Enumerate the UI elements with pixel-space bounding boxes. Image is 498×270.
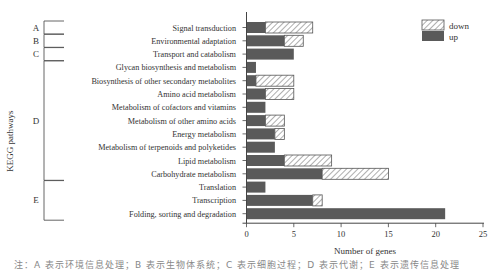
- bar-up: [247, 182, 266, 193]
- bar-down: [322, 168, 388, 179]
- category-label: Metabolism of other amino acids: [128, 117, 236, 126]
- legend-up-swatch: [422, 31, 444, 41]
- category-label: Metabolism of cofactors and vitamins: [112, 103, 236, 112]
- group-label: D: [33, 116, 40, 126]
- bar-up: [247, 128, 275, 139]
- group-bracket: [44, 48, 64, 61]
- category-label: Signal transduction: [173, 24, 236, 33]
- x-tick-label: 25: [479, 229, 488, 239]
- bar-down: [265, 115, 284, 126]
- group-label: E: [33, 195, 39, 205]
- bar-up: [247, 75, 256, 86]
- x-tick-label: 20: [431, 229, 440, 239]
- group-bracket: [44, 181, 64, 221]
- category-label: Biosynthesis of other secondary metaboli…: [91, 77, 236, 86]
- group-label: A: [33, 23, 40, 33]
- group-bracket: [44, 61, 64, 180]
- bar-down: [284, 35, 303, 46]
- bar-up: [247, 195, 313, 206]
- category-label: Metabolism of terpenoids and polyketides: [98, 143, 236, 152]
- x-tick-label: 0: [244, 229, 248, 239]
- category-label: Energy metabolism: [172, 130, 236, 139]
- bar-up: [247, 22, 266, 33]
- legend: down up: [422, 20, 469, 42]
- x-tick-label: 10: [337, 229, 346, 239]
- legend-down-label: down: [449, 21, 469, 31]
- category-label: Translation: [199, 183, 236, 192]
- x-axis-title: Number of genes: [334, 246, 396, 256]
- legend-up-label: up: [449, 32, 459, 42]
- category-label: Transcription: [192, 196, 236, 205]
- bar-up: [247, 35, 285, 46]
- category-label: Carbohydrate metabolism: [151, 170, 236, 179]
- bars-layer: [247, 22, 446, 219]
- bar-down: [256, 75, 294, 86]
- x-tick-label: 5: [292, 229, 296, 239]
- category-label: Transport and catabolism: [153, 50, 237, 59]
- category-label: Glycan biosynthesis and metabolism: [116, 63, 237, 72]
- category-label: Lipid metabolism: [178, 157, 237, 166]
- bar-up: [247, 142, 275, 153]
- bar-up: [247, 102, 266, 113]
- group-label: C: [33, 49, 39, 59]
- bar-down: [265, 89, 293, 100]
- group-bracket: [44, 21, 64, 34]
- legend-down-swatch: [422, 20, 444, 30]
- bar-down: [313, 195, 322, 206]
- bar-up: [247, 155, 285, 166]
- kegg-bar-chart: Signal transductionEnvironmental adaptat…: [0, 0, 498, 270]
- bar-up: [247, 115, 266, 126]
- category-label: Folding, sorting and degradation: [129, 210, 236, 219]
- bar-up: [247, 49, 294, 60]
- bar-up: [247, 62, 256, 73]
- pathway-groups: ABCDE: [33, 21, 64, 220]
- x-tick-label: 15: [384, 229, 393, 239]
- bar-down: [284, 155, 331, 166]
- bar-up: [247, 208, 446, 219]
- category-labels: Signal transductionEnvironmental adaptat…: [91, 24, 236, 219]
- figure-caption: 注：A 表示环境信息处理；B 表示生物体系统；C 表示细胞过程；D 表示代谢；E…: [14, 258, 460, 270]
- category-label: Environmental adaptation: [151, 37, 236, 46]
- group-label: B: [33, 36, 39, 46]
- bar-down: [275, 128, 284, 139]
- bar-down: [265, 22, 312, 33]
- bar-up: [247, 168, 323, 179]
- y-axis-title: KEGG pathways: [5, 110, 15, 172]
- group-bracket: [44, 34, 64, 47]
- category-label: Amino acid metabolism: [157, 90, 236, 99]
- bar-up: [247, 89, 266, 100]
